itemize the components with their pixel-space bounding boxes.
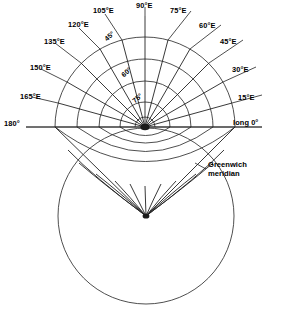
greenwich-meridian-annotation: Greenwich meridian [208, 160, 247, 179]
south-pole-point [143, 213, 150, 218]
greenwich-line-2: meridian [208, 169, 247, 178]
leader-120 [79, 28, 100, 49]
meridian-label-90e: 90°E [136, 2, 153, 9]
southern-parallel-45 [77, 127, 213, 152]
meridian-ray-165 [58, 103, 145, 127]
south-meridian-135 [96, 174, 146, 216]
south-meridian-60 [146, 181, 176, 216]
meridian-label-30e: 30°E [232, 66, 249, 73]
meridian-rays [55, 16, 235, 127]
south-meridian-120 [115, 181, 146, 216]
meridian-ray-15 [145, 103, 232, 127]
meridian-ray-75 [145, 40, 168, 127]
label-leader-lines [26, 7, 262, 127]
meridian-ray-105 [122, 40, 145, 127]
meridian-label-135e: 135°E [44, 38, 65, 45]
projection-drawing [0, 0, 286, 316]
meridian-label-45e: 45°E [220, 38, 237, 45]
meridian-ray-45 [145, 63, 209, 127]
meridian-label-long-0: long 0° [233, 119, 258, 126]
meridian-label-105e: 105°E [93, 7, 114, 14]
south-meridian-90 [145, 186, 146, 216]
southern-parallel-outer [55, 127, 235, 162]
greenwich-line-1: Greenwich [208, 160, 247, 169]
meridian-label-180: 180° [4, 120, 20, 127]
meridian-label-15e: 15°E [238, 94, 255, 101]
meridian-label-150e: 150°E [30, 64, 51, 71]
meridian-label-120e: 120°E [68, 21, 89, 28]
leader-75 [168, 11, 191, 40]
greenwich-leader-line [195, 163, 206, 169]
south-meridian-45 [146, 174, 196, 216]
meridian-label-60e: 60°E [199, 22, 216, 29]
southern-parallels [55, 127, 235, 162]
projection-diagram: long 0° 15°E 30°E 45°E 60°E 75°E 90°E 10… [0, 0, 286, 316]
leader-135 [55, 43, 81, 63]
north-pole-point [140, 124, 149, 130]
meridian-label-75e: 75°E [170, 7, 187, 14]
meridian-label-165e: 165°E [20, 93, 41, 100]
